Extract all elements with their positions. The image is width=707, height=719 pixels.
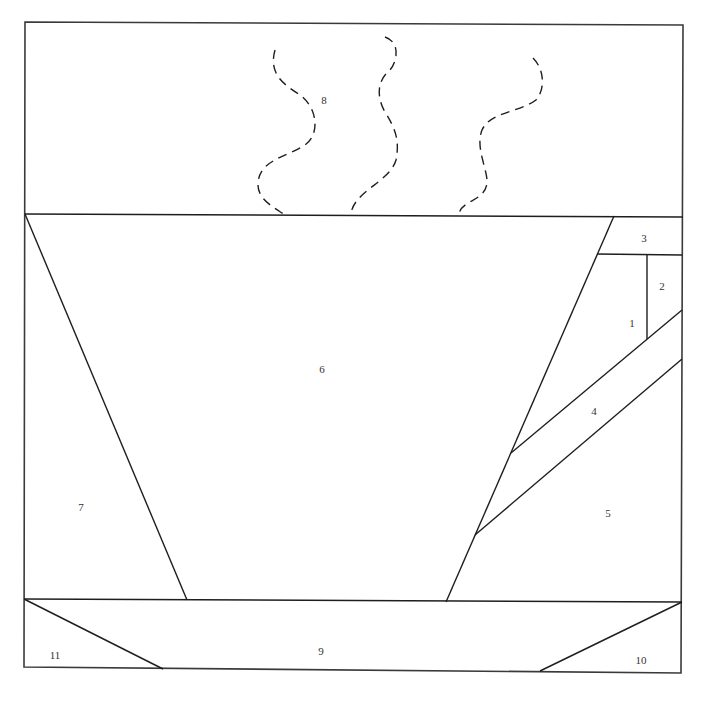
piece-label-5: 5: [605, 507, 611, 519]
saucer-top-line: [24, 599, 682, 602]
piece-3-bottom-line: [597, 254, 682, 255]
cup-left-side: [25, 214, 187, 600]
outer-border: [24, 22, 683, 673]
piece-label-2: 2: [659, 280, 665, 292]
piece-label-1: 1: [629, 317, 635, 329]
piece-label-3: 3: [641, 232, 647, 244]
steam-middle: [351, 37, 397, 215]
cup-right-side: [446, 216, 614, 602]
piece-label-7: 7: [78, 501, 84, 513]
handle-lower-line: [475, 359, 682, 535]
piece-label-4: 4: [591, 405, 597, 417]
pattern-diagram: [0, 0, 707, 719]
steam-left: [258, 50, 315, 215]
saucer-right-diagonal: [540, 602, 682, 671]
steam-right: [459, 58, 542, 215]
piece-label-8: 8: [321, 94, 327, 106]
piece-label-11: 11: [50, 649, 61, 661]
cup-rim-line: [25, 214, 683, 217]
piece-label-10: 10: [636, 654, 647, 666]
piece-label-9: 9: [318, 645, 324, 657]
piece-label-6: 6: [319, 363, 325, 375]
saucer-left-diagonal: [24, 599, 163, 669]
